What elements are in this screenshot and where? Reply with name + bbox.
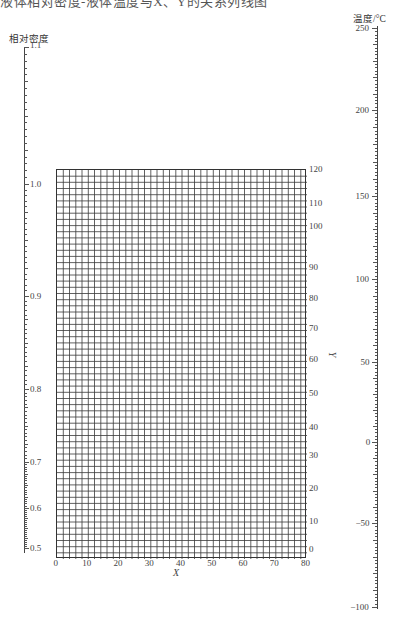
temperature-minor-tick [375,249,378,250]
temperature-minor-tick [373,179,377,180]
density-minor-tick [24,296,29,297]
density-minor-tick [24,411,27,412]
temperature-minor-tick [375,58,378,59]
temperature-minor-tick [375,48,378,49]
temperature-minor-tick [375,510,378,511]
temperature-minor-tick [375,547,378,548]
temperature-minor-tick [375,276,378,277]
temperature-minor-tick [372,279,377,280]
temperature-minor-tick [375,256,378,257]
temperature-minor-tick [375,316,378,317]
density-minor-tick [24,483,27,484]
y-tick-label: 10 [309,516,318,526]
temperature-minor-tick [373,491,377,492]
density-minor-tick [24,512,27,513]
temperature-minor-tick [375,239,378,240]
temperature-minor-tick [375,600,378,601]
temperature-minor-tick [375,478,378,479]
density-minor-tick [24,444,28,445]
temperature-minor-tick [375,372,378,373]
density-minor-tick [24,429,27,430]
temperature-tick-label: 150 [355,191,369,201]
temperature-minor-tick [375,124,378,125]
density-minor-tick [24,352,27,353]
temperature-minor-tick [375,388,378,389]
temperature-minor-tick [375,35,378,36]
temperature-minor-tick [375,407,378,408]
temperature-minor-tick [373,394,377,395]
density-minor-tick [24,433,27,434]
temperature-tick-label: 200 [355,105,369,115]
temperature-minor-tick [373,162,377,163]
temperature-minor-tick [375,103,378,104]
temperature-minor-tick [375,560,378,561]
density-minor-tick [24,195,27,196]
temperature-minor-tick [375,120,378,121]
density-minor-tick [24,492,27,493]
temperature-minor-tick [375,413,378,414]
temperature-minor-tick [375,54,378,55]
temperature-minor-tick [375,151,378,152]
density-minor-tick [24,274,27,275]
temperature-minor-tick [375,90,378,91]
temperature-minor-tick [375,172,378,173]
density-minor-tick [24,499,27,500]
density-minor-tick [24,81,28,82]
density-minor-tick [24,324,27,325]
density-minor-tick [24,170,27,171]
density-minor-tick [24,400,27,401]
density-minor-tick [24,268,28,269]
density-minor-tick [24,426,28,427]
density-minor-tick [24,356,27,357]
temperature-minor-tick [375,209,378,210]
temperature-minor-tick [375,543,378,544]
temperature-tick-label: 250 [355,23,369,33]
density-major-tick [24,548,29,549]
temperature-minor-tick [373,507,377,508]
temperature-minor-tick [375,381,378,382]
y-tick-label: 90 [309,262,318,272]
temperature-minor-tick [373,458,377,459]
density-minor-tick [24,480,27,481]
density-minor-tick [24,136,27,137]
temperature-minor-tick [375,604,378,605]
density-minor-tick [24,375,27,376]
temperature-minor-tick [373,590,377,591]
density-tick-label: 0.7 [30,457,41,467]
temperature-minor-tick [375,189,378,190]
temperature-minor-tick [373,262,377,263]
density-minor-tick [24,290,27,291]
temperature-minor-tick [375,384,378,385]
temperature-minor-tick [375,282,378,283]
temperature-minor-tick [375,233,378,234]
temperature-minor-tick [375,199,378,200]
temperature-minor-tick [375,226,378,227]
temperature-minor-tick [375,349,378,350]
density-minor-tick [24,184,29,185]
temperature-tick-label: −100 [350,602,369,612]
density-minor-tick [24,510,27,511]
y-tick-label: 100 [309,221,323,231]
temperature-minor-tick [372,442,377,443]
temperature-minor-tick [375,266,378,267]
temperature-minor-tick [375,533,378,534]
temperature-minor-tick [375,497,378,498]
xy-grid [56,169,306,558]
temperature-minor-tick [375,74,378,75]
density-minor-tick [24,536,27,537]
temperature-minor-tick [375,269,378,270]
density-minor-tick [24,518,28,519]
y-tick-label: 60 [309,354,318,364]
temperature-minor-tick [372,196,377,197]
temperature-minor-tick [373,144,377,145]
density-minor-tick [24,223,27,224]
x-tick-label: 60 [239,558,248,568]
temperature-minor-tick [375,455,378,456]
temperature-minor-tick [375,368,378,369]
density-minor-tick [24,68,27,69]
temperature-minor-tick [375,158,378,159]
temperature-minor-tick [373,329,377,330]
temperature-minor-tick [375,550,378,551]
temperature-minor-tick [375,309,378,310]
y-tick-label: 20 [309,483,318,493]
